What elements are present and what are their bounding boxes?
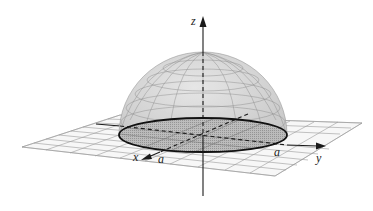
- hemisphere-diagram: z x a a y: [0, 0, 373, 211]
- z-axis-label: z: [190, 14, 196, 28]
- x-axis-label: x: [132, 150, 139, 164]
- y-axis-label: y: [315, 151, 322, 165]
- z-arrow-icon: [200, 16, 207, 27]
- x-tick-label-a: a: [158, 152, 164, 166]
- y-tick-label-a: a: [274, 145, 280, 159]
